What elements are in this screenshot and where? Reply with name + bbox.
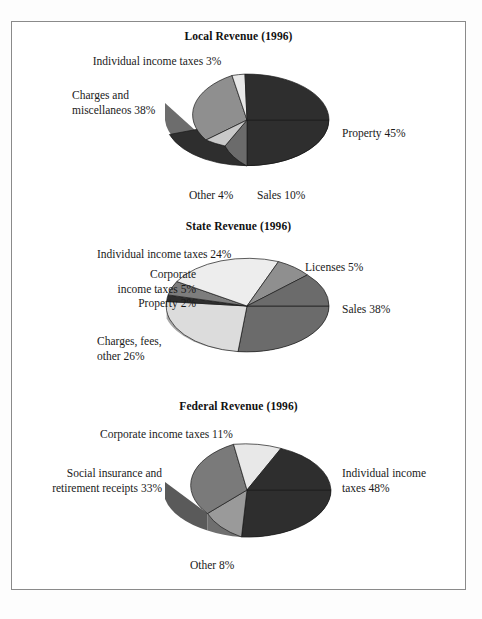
label-state-licenses: Licenses 5%: [305, 260, 395, 275]
chart-federal-revenue: Federal Revenue (1996): [12, 400, 465, 590]
pie-local: [162, 58, 332, 183]
slice-top-individual-income: [242, 490, 332, 537]
label-state-sales: Sales 38%: [342, 302, 432, 317]
label-local-sales: Sales 10%: [257, 188, 347, 203]
pie-local-svg: [162, 58, 332, 183]
figure-frame: Local Revenue (1996): [11, 21, 466, 590]
label-federal-corporate-income: Corporate income taxes 11%: [100, 427, 290, 442]
label-local-charges: Charges and miscellaneos 38%: [72, 88, 192, 117]
label-state-property: Property 2%: [74, 296, 196, 311]
chart-state-revenue: State Revenue (1996): [12, 220, 465, 410]
chart-local-revenue: Local Revenue (1996): [12, 30, 465, 220]
label-state-corporate-income: Corporate income taxes 5%: [74, 267, 196, 296]
slice-top-property: [169, 120, 329, 166]
chart-title-local: Local Revenue (1996): [12, 30, 465, 42]
label-local-other: Other 4%: [189, 188, 269, 203]
label-federal-individual-income: Individual income taxes 48%: [342, 466, 462, 495]
label-state-individual-income: Individual income taxes 24%: [97, 247, 277, 262]
pie-federal: [159, 430, 339, 560]
slice-top-property-front: [245, 74, 329, 120]
label-state-charges-fees: Charges, fees, other 26%: [97, 334, 207, 363]
label-federal-social-insurance: Social insurance and retirement receipts…: [27, 466, 162, 495]
chart-title-state: State Revenue (1996): [12, 220, 465, 232]
chart-title-federal: Federal Revenue (1996): [12, 400, 465, 412]
label-federal-other: Other 8%: [190, 558, 280, 573]
label-local-individual-income: Individual income taxes 3%: [67, 54, 247, 69]
label-local-property: Property 45%: [342, 126, 452, 141]
page-canvas: Local Revenue (1996): [0, 0, 482, 619]
slice-top-sales: [238, 306, 329, 352]
pie-federal-svg: [159, 430, 339, 560]
